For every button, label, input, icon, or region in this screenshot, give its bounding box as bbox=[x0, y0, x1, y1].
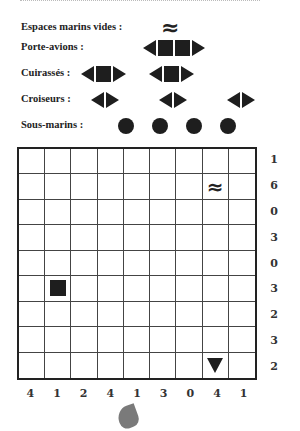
grid-cell[interactable] bbox=[203, 302, 229, 327]
grid-cell[interactable] bbox=[45, 200, 71, 225]
decorative-flame-shape bbox=[115, 403, 141, 431]
grid-cell[interactable] bbox=[203, 327, 229, 352]
grid-cell[interactable] bbox=[229, 225, 255, 250]
grid-cell[interactable] bbox=[71, 149, 97, 174]
submarine-icon bbox=[118, 118, 134, 134]
grid-cell[interactable] bbox=[150, 200, 176, 225]
grid-cell[interactable] bbox=[203, 149, 229, 174]
grid-cell[interactable] bbox=[229, 174, 255, 199]
grid-cell[interactable] bbox=[19, 251, 45, 276]
puzzle-grid: ≈ bbox=[17, 147, 257, 380]
grid-cell[interactable] bbox=[71, 174, 97, 199]
grid-cell[interactable] bbox=[45, 251, 71, 276]
col-clue: 1 bbox=[231, 387, 257, 400]
grid-cell[interactable] bbox=[150, 302, 176, 327]
grid-cell[interactable] bbox=[124, 327, 150, 352]
grid-cell[interactable] bbox=[98, 200, 124, 225]
col-clue: 2 bbox=[71, 387, 97, 400]
grid-cell[interactable] bbox=[176, 225, 202, 250]
grid-cell[interactable] bbox=[45, 225, 71, 250]
grid-cell[interactable] bbox=[19, 149, 45, 174]
grid-cell[interactable] bbox=[124, 225, 150, 250]
grid-cell[interactable] bbox=[45, 149, 71, 174]
grid-cell[interactable] bbox=[98, 174, 124, 199]
grid-cell[interactable] bbox=[176, 276, 202, 301]
grid-cell[interactable] bbox=[124, 200, 150, 225]
grid-cell[interactable] bbox=[150, 149, 176, 174]
grid-cell[interactable] bbox=[19, 174, 45, 199]
grid-cell[interactable] bbox=[98, 225, 124, 250]
grid-cell[interactable] bbox=[229, 276, 255, 301]
submarine-icon bbox=[220, 118, 236, 134]
grid-cell[interactable] bbox=[98, 276, 124, 301]
grid-cell[interactable] bbox=[45, 353, 71, 378]
grid-cell[interactable] bbox=[71, 251, 97, 276]
grid-cell[interactable] bbox=[203, 225, 229, 250]
grid-cell[interactable] bbox=[45, 302, 71, 327]
grid-cell[interactable] bbox=[176, 327, 202, 352]
grid-cell[interactable] bbox=[71, 225, 97, 250]
grid-cell[interactable] bbox=[98, 149, 124, 174]
grid-cell[interactable] bbox=[124, 251, 150, 276]
grid-cell[interactable] bbox=[150, 251, 176, 276]
grid-cell[interactable] bbox=[176, 174, 202, 199]
grid-cell[interactable] bbox=[124, 149, 150, 174]
grid-cell[interactable] bbox=[98, 327, 124, 352]
grid-cell[interactable] bbox=[229, 302, 255, 327]
grid-cell[interactable] bbox=[19, 353, 45, 378]
grid-cell[interactable] bbox=[19, 200, 45, 225]
grid-cell[interactable] bbox=[203, 276, 229, 301]
grid-cell[interactable] bbox=[124, 302, 150, 327]
col-clue: 4 bbox=[97, 387, 123, 400]
grid-cell[interactable] bbox=[45, 276, 71, 301]
row-clue: 2 bbox=[268, 360, 280, 373]
grid-cell[interactable] bbox=[229, 353, 255, 378]
grid-cell[interactable] bbox=[98, 353, 124, 378]
legend-battleship-label: Cuirassés : bbox=[21, 67, 70, 78]
grid-cell[interactable] bbox=[150, 225, 176, 250]
col-clue: 0 bbox=[177, 387, 203, 400]
grid-cell[interactable] bbox=[124, 174, 150, 199]
grid-cell[interactable] bbox=[124, 353, 150, 378]
grid-cell[interactable] bbox=[45, 174, 71, 199]
grid-cell[interactable] bbox=[124, 276, 150, 301]
grid-cell[interactable] bbox=[19, 276, 45, 301]
grid-cell[interactable] bbox=[229, 251, 255, 276]
submarine-icon bbox=[186, 118, 202, 134]
grid-cell[interactable] bbox=[98, 251, 124, 276]
grid-cell[interactable] bbox=[229, 327, 255, 352]
legend-cruiser: Croiseurs : bbox=[21, 90, 291, 110]
ship-end-down-icon bbox=[207, 358, 223, 373]
col-clue: 3 bbox=[151, 387, 177, 400]
grid-cell[interactable] bbox=[19, 302, 45, 327]
grid-cell[interactable] bbox=[19, 327, 45, 352]
grid-cell[interactable] bbox=[45, 327, 71, 352]
grid-cell[interactable] bbox=[203, 200, 229, 225]
grid-cell[interactable] bbox=[150, 327, 176, 352]
grid-cell[interactable] bbox=[229, 200, 255, 225]
legend-carrier: Porte-avions : bbox=[21, 38, 291, 58]
grid-cell[interactable] bbox=[176, 200, 202, 225]
grid-cell[interactable]: ≈ bbox=[203, 174, 229, 199]
row-clue: 2 bbox=[268, 308, 280, 321]
grid-cell[interactable] bbox=[19, 225, 45, 250]
grid-cell[interactable] bbox=[150, 353, 176, 378]
row-clue: 6 bbox=[268, 179, 280, 192]
grid-cell[interactable] bbox=[203, 353, 229, 378]
battleship-ship-icon bbox=[81, 66, 126, 82]
grid-cell[interactable] bbox=[176, 149, 202, 174]
grid-cell[interactable] bbox=[150, 174, 176, 199]
grid-cell[interactable] bbox=[176, 251, 202, 276]
water-icon: ≈ bbox=[203, 175, 228, 199]
grid-cell[interactable] bbox=[71, 353, 97, 378]
grid-cell[interactable] bbox=[71, 200, 97, 225]
grid-cell[interactable] bbox=[229, 149, 255, 174]
grid-cell[interactable] bbox=[176, 353, 202, 378]
grid-cell[interactable] bbox=[176, 302, 202, 327]
grid-cell[interactable] bbox=[71, 276, 97, 301]
grid-cell[interactable] bbox=[71, 302, 97, 327]
grid-cell[interactable] bbox=[203, 251, 229, 276]
grid-cell[interactable] bbox=[98, 302, 124, 327]
grid-cell[interactable] bbox=[150, 276, 176, 301]
grid-cell[interactable] bbox=[71, 327, 97, 352]
